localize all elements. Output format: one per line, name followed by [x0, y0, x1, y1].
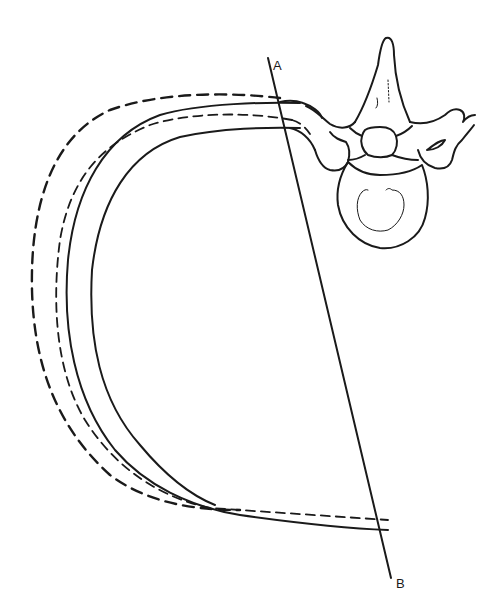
inner-solid-rib-curve — [91, 128, 300, 505]
inner-dashed-rib-curve — [56, 115, 388, 520]
outer-solid-rib-curve — [67, 103, 388, 530]
spinous-process — [355, 38, 410, 122]
label-b: B — [396, 576, 405, 591]
transverse-process-left — [315, 132, 349, 171]
rib-cage-diagram: A B — [0, 0, 492, 611]
vertebra — [306, 38, 475, 248]
transverse-process-right — [418, 125, 474, 169]
pedicle-right — [392, 126, 418, 160]
vertebral-body-inner — [357, 189, 404, 232]
outer-dashed-rib-curve — [32, 94, 280, 510]
vertebral-body — [337, 162, 427, 248]
rib-head-lower — [290, 128, 315, 150]
label-a: A — [273, 58, 282, 73]
vertebral-foramen — [361, 127, 397, 157]
line-ab — [268, 58, 391, 578]
lamina-right — [410, 109, 475, 123]
lamina-left — [306, 106, 355, 128]
rib-facet-right — [427, 140, 445, 150]
vertebral-body-inner-left-tip — [362, 190, 368, 192]
spinous-ridge-left — [376, 98, 378, 108]
spinous-process-detail — [388, 80, 389, 102]
